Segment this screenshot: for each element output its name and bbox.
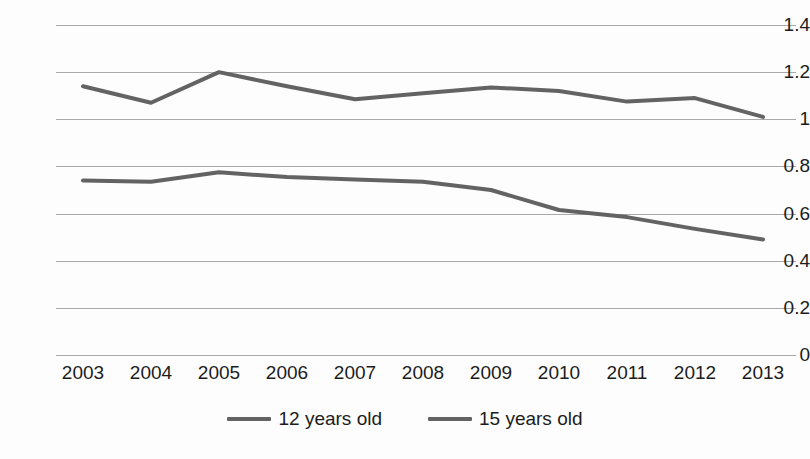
- line-chart: 00.20.40.60.811.21.4 2003200420052006200…: [0, 0, 810, 459]
- x-axis-tick-label: 2007: [320, 362, 390, 384]
- x-axis-tick-label: 2005: [184, 362, 254, 384]
- x-axis-tick-label: 2003: [48, 362, 118, 384]
- series-line-12-years-old: [83, 172, 763, 239]
- x-axis-tick-label: 2011: [592, 362, 662, 384]
- x-axis-tick-label: 2013: [728, 362, 798, 384]
- series-lines: [0, 0, 810, 380]
- legend-swatch-12-years-old: [227, 417, 271, 421]
- x-axis-tick-label: 2012: [660, 362, 730, 384]
- legend-label: 15 years old: [479, 408, 583, 430]
- legend-entry[interactable]: 15 years old: [428, 408, 583, 430]
- x-axis-tick-label: 2006: [252, 362, 322, 384]
- x-axis-tick-label: 2010: [524, 362, 594, 384]
- plot-area: 00.20.40.60.811.21.4 2003200420052006200…: [0, 0, 810, 380]
- x-axis-tick-label: 2009: [456, 362, 526, 384]
- chart-legend: 12 years old15 years old: [0, 408, 810, 430]
- legend-entry[interactable]: 12 years old: [227, 408, 382, 430]
- series-line-15-years-old: [83, 72, 763, 117]
- x-axis-tick-label: 2008: [388, 362, 458, 384]
- x-axis-tick-label: 2004: [116, 362, 186, 384]
- legend-label: 12 years old: [278, 408, 382, 430]
- legend-swatch-15-years-old: [428, 417, 472, 421]
